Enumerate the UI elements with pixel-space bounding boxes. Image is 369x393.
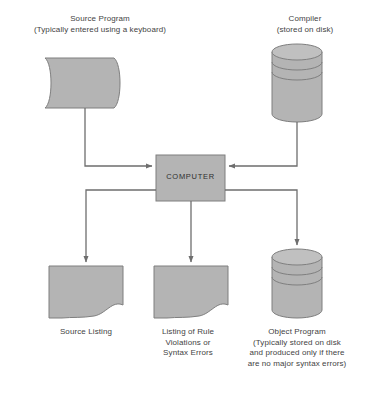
listing-of-rule-violations-shape: [154, 266, 228, 318]
source-listing-label: Source Listing: [36, 327, 136, 338]
connector-computer-to-source-listing: [86, 190, 156, 262]
source-program-label: Source Program (Typically entered using …: [0, 14, 200, 35]
connector-compiler-to-computer: [229, 122, 297, 166]
connector-computer-to-object-program: [225, 190, 297, 245]
source-program-shape: [45, 58, 120, 108]
compiler-shape: [272, 44, 322, 122]
computer-label: COMPUTER: [156, 172, 225, 181]
compiler-label: Compiler (stored on disk): [244, 14, 366, 35]
source-listing-shape: [49, 266, 123, 318]
compiler-process-diagram: Source Program (Typically entered using …: [0, 0, 369, 393]
object-program-shape: [272, 249, 322, 318]
object-program-label: Object Program (Typically stored on disk…: [226, 327, 368, 369]
connector-source-program-to-computer: [85, 108, 152, 166]
